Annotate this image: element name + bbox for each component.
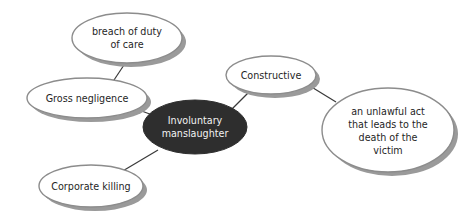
node-constructive[interactable]: Constructive	[226, 56, 316, 94]
node-label-unlawful-act-line4: victim	[373, 145, 402, 156]
node-label-involuntary-manslaughter-line2: manslaughter	[162, 128, 229, 139]
node-label-constructive: Constructive	[241, 70, 302, 81]
connector-center-to-corporate	[121, 150, 158, 172]
node-shape-involuntary-manslaughter[interactable]	[143, 100, 247, 154]
mind-map-canvas: breach of duty of care Gross negligence …	[0, 0, 463, 216]
node-shape-breach-of-duty-of-care[interactable]	[72, 13, 182, 63]
node-shape-unlawful-act[interactable]	[322, 88, 454, 172]
node-label-gross-negligence: Gross negligence	[46, 93, 129, 104]
node-involuntary-manslaughter[interactable]: Involuntary manslaughter	[143, 100, 247, 154]
node-label-unlawful-act-line2: that leads to the	[348, 119, 428, 130]
node-label-unlawful-act-line1: an unlawful act	[351, 106, 425, 117]
node-label-unlawful-act-line3: death of the	[359, 132, 418, 143]
node-label-corporate-killing: Corporate killing	[51, 181, 130, 192]
node-unlawful-act[interactable]: an unlawful act that leads to the death …	[322, 88, 454, 172]
node-label-breach-of-duty-of-care-line2: of care	[110, 39, 143, 50]
node-corporate-killing[interactable]: Corporate killing	[39, 165, 143, 207]
node-breach-of-duty-of-care[interactable]: breach of duty of care	[72, 13, 182, 63]
node-label-involuntary-manslaughter-line1: Involuntary	[168, 115, 223, 126]
mind-map-diagram: breach of duty of care Gross negligence …	[0, 0, 463, 216]
node-gross-negligence[interactable]: Gross negligence	[27, 78, 147, 118]
node-label-breach-of-duty-of-care-line1: breach of duty	[92, 26, 162, 37]
